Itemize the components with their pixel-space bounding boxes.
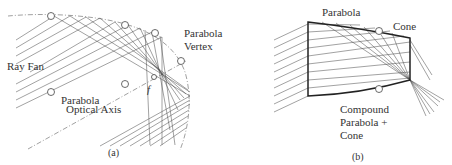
label-cone: Cone [393, 20, 416, 32]
label-parabola-vertex-2: Vertex [184, 40, 213, 52]
label-parabola: Parabola [322, 6, 361, 18]
caption-a: (a) [108, 147, 119, 159]
caption-b: (b) [352, 151, 364, 163]
ray-fan-b-exit [410, 40, 444, 116]
label-optical-axis: Optical Axis [66, 103, 121, 115]
marker-circle [178, 58, 185, 65]
marker-circle [376, 28, 383, 35]
focus-point [152, 75, 157, 80]
panel-a: Ray Fan Parabola Vertex Parabola Optical… [7, 13, 223, 160]
label-parabola-vertex-1: Parabola [184, 27, 223, 39]
marker-circle [48, 13, 55, 20]
ray-fan-b-incoming [274, 24, 308, 112]
label-ray-fan: Ray Fan [7, 60, 44, 72]
label-compound-3: Cone [340, 129, 363, 141]
marker-circle [122, 81, 129, 88]
marker-circle [122, 22, 129, 29]
label-compound-1: Compound [340, 103, 389, 115]
ray-fan-reflected [54, 16, 190, 145]
marker-circle [376, 86, 383, 93]
marker-circle [48, 89, 55, 96]
panel-b: Parabola Cone Compound Parabola + Cone (… [274, 6, 444, 163]
label-compound-2: Parabola + [340, 116, 387, 128]
marker-circle [152, 30, 159, 37]
optics-figure: Ray Fan Parabola Vertex Parabola Optical… [0, 0, 452, 165]
label-focus: f [147, 83, 152, 95]
